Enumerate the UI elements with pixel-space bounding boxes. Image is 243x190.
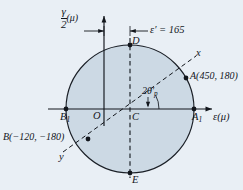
angle-subscript: p <box>154 90 158 98</box>
point-label-A1: A1 <box>192 112 202 124</box>
epsilon-axis-label: ε(μ) <box>213 112 229 123</box>
gamma-half-axis-label: γ 2 (μ) <box>61 6 78 30</box>
point-label-B: B(−120, −180) <box>3 132 64 142</box>
angle-base: 2θ <box>142 85 152 96</box>
point-label-O: O <box>93 111 101 122</box>
point-label-B1: B1 <box>60 112 70 124</box>
point-label-A: A(450, 180) <box>190 71 238 81</box>
rotated-y-axis-label: y <box>59 152 64 163</box>
rotated-x-axis-label: x <box>196 48 201 59</box>
point-A1-subscript: 1 <box>198 115 202 124</box>
mohrs-circle-figure <box>0 0 243 190</box>
dimension-label: ε′ = 165 <box>150 25 185 36</box>
point-label-E: E <box>132 175 138 186</box>
point-label-C: C <box>132 112 139 123</box>
point-B1-subscript: 1 <box>66 115 70 124</box>
gamma-axis-units: (μ) <box>67 12 79 23</box>
point-marker-B <box>86 137 91 142</box>
point-label-D: D <box>132 36 140 47</box>
point-marker-A <box>184 76 189 81</box>
angle-label: 2θ′p <box>142 86 158 98</box>
